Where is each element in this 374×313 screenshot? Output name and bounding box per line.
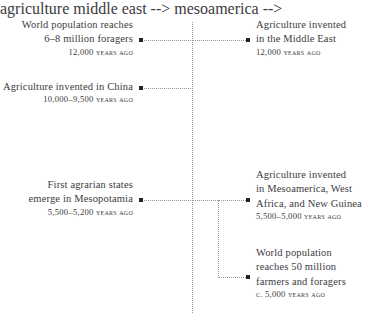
entry-line: in Mesoamerica, West	[256, 182, 374, 196]
entry-line: Africa, and New Guinea	[256, 197, 374, 211]
entry-line: Agriculture invented	[256, 18, 374, 32]
connector-row-1-left	[142, 40, 193, 41]
entry-line: Agriculture invented in China	[0, 80, 133, 94]
entry-line: World population	[256, 246, 374, 260]
central-timeline-axis	[192, 22, 193, 313]
entry-line: 6–8 million foragers	[0, 32, 133, 46]
connector-elbow-vertical	[218, 200, 219, 278]
entry-line: First agrarian states	[0, 178, 133, 192]
entry-line: reaches 50 million	[256, 260, 374, 274]
entry-line: World population reaches	[0, 18, 133, 32]
entry-line: in the Middle East	[256, 32, 374, 46]
connector-row-1-right	[192, 40, 248, 41]
node-dot-world-population-foragers	[139, 38, 143, 42]
connector-elbow-horizontal	[218, 277, 248, 278]
node-dot-agriculture-china	[139, 86, 143, 90]
timeline-entry-world-population-foragers: World population reaches 6–8 million for…	[0, 18, 133, 59]
entry-line: farmers and foragers	[256, 275, 374, 289]
timeline-figure: agriculture middle east --> mesoamerica …	[0, 0, 374, 313]
entry-date: 10,000–9,500 years ago	[0, 94, 133, 106]
timeline-entry-first-agrarian-states-mesopotamia: First agrarian states emerge in Mesopota…	[0, 178, 133, 219]
connector-row-2-left	[142, 88, 193, 89]
timeline-entry-agriculture-china: Agriculture invented in China 10,000–9,5…	[0, 80, 133, 106]
node-dot-world-population-50-million	[246, 275, 250, 279]
entry-line: Agriculture invented	[256, 168, 374, 182]
node-dot-agriculture-middle-east	[246, 38, 250, 42]
timeline-entry-agriculture-middle-east: Agriculture invented in the Middle East …	[256, 18, 374, 59]
node-dot-first-agrarian-states-mesopotamia	[139, 198, 143, 202]
entry-date: 5,500–5,200 years ago	[0, 207, 133, 219]
node-dot-agriculture-mesoamerica	[246, 198, 250, 202]
timeline-entry-agriculture-mesoamerica: Agriculture invented in Mesoamerica, Wes…	[256, 168, 374, 223]
entry-date: c. 5,000 years ago	[256, 289, 374, 301]
connector-row-3-left	[142, 200, 193, 201]
entry-line: emerge in Mesopotamia	[0, 192, 133, 206]
timeline-entry-world-population-50-million: World population reaches 50 million farm…	[256, 246, 374, 301]
entry-date: 12,000 years ago	[256, 47, 374, 59]
entry-date: 5,500–5,000 years ago	[256, 211, 374, 223]
connector-row-3-right	[192, 200, 248, 201]
entry-date: 12,000 years ago	[0, 47, 133, 59]
